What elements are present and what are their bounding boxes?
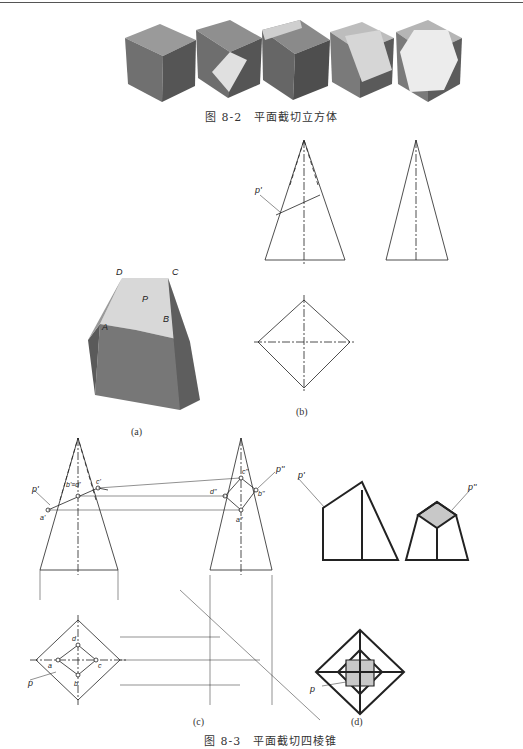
label-c-double-prime: c'' xyxy=(242,468,249,475)
figure-8-3-drawing: D C P A B p' p' b'≡d' c' a' xyxy=(0,0,523,749)
label-p-prime-c: p' xyxy=(31,484,39,494)
panel-d-front-view xyxy=(323,482,398,560)
panel-b-top-view xyxy=(254,295,354,392)
label-p-c: p xyxy=(27,678,33,688)
panel-d-side-view xyxy=(406,502,468,560)
label-C: C xyxy=(172,267,179,277)
panel-b-side-view xyxy=(386,140,448,262)
label-b-d-prime: b'≡d' xyxy=(66,481,81,488)
label-c-prime: c' xyxy=(96,478,102,485)
label-c: c xyxy=(98,662,102,669)
label-d: d xyxy=(72,635,77,642)
leader-p-prime-d xyxy=(298,478,325,508)
leader-p-d xyxy=(322,682,346,686)
panel-c-side-view xyxy=(210,438,275,575)
label-B: B xyxy=(163,314,169,324)
panel-c-projection-lines xyxy=(40,478,320,720)
label-b: b xyxy=(74,680,78,687)
label-p-d: p xyxy=(309,684,315,694)
panel-d-top-view xyxy=(316,630,404,714)
figure-8-3-caption: 图 8-3 平面截切四棱锥 xyxy=(204,732,337,748)
label-A: A xyxy=(101,322,108,332)
label-b-double-prime: b'' xyxy=(258,490,265,497)
label-d-double-prime: d'' xyxy=(210,488,217,495)
label-p-double-prime-d: p'' xyxy=(467,482,477,492)
panel-a-label: (a) xyxy=(131,426,142,437)
panel-c-top-view xyxy=(30,615,126,705)
panel-b-label: (b) xyxy=(296,406,308,417)
panel-b-front-view xyxy=(260,140,345,265)
label-a: a xyxy=(48,662,52,669)
label-a-double-prime: a'' xyxy=(236,516,243,523)
label-p-prime-d: p' xyxy=(297,470,305,480)
panel-c-front-view xyxy=(34,438,118,575)
label-P: P xyxy=(142,294,148,304)
label-p-prime-b: p' xyxy=(254,185,262,195)
leader-p-double-prime-d xyxy=(452,490,470,510)
label-a-prime: a' xyxy=(40,514,46,521)
panel-c-label: (c) xyxy=(193,716,204,727)
label-D: D xyxy=(116,267,123,277)
label-p-double-prime-c: p'' xyxy=(275,464,285,474)
panel-d-label: (d) xyxy=(351,716,363,727)
